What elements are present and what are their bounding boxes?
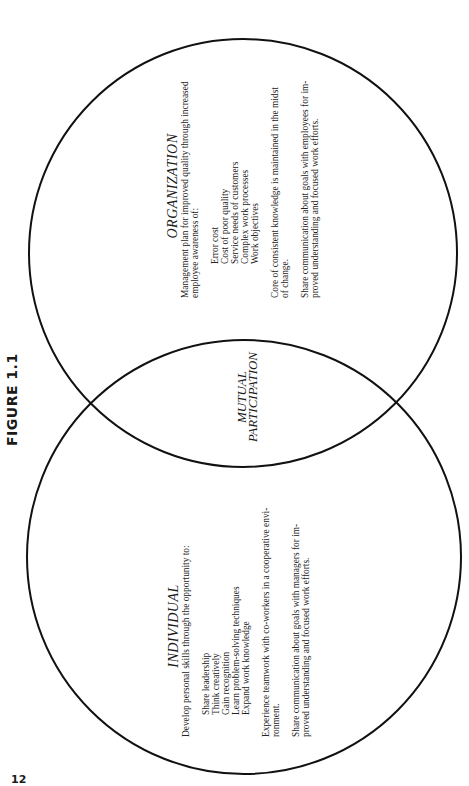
individual-opportunity-list: Share leadership Think creatively Gain r… (201, 515, 251, 737)
figure-label: FIGURE 1.1 (4, 353, 20, 446)
list-item: Share leadership (201, 515, 211, 715)
organization-share-line-2: proved understanding and focused work ef… (310, 74, 320, 298)
organization-core-line-2: of change. (280, 74, 290, 298)
organization-share-line-1: Share communication about goals with emp… (300, 74, 310, 298)
individual-heading: INDIVIDUAL (167, 515, 181, 737)
list-item: Work objectives (250, 74, 260, 264)
organization-heading: ORGANIZATION (166, 74, 180, 298)
list-item: Learn problem-solving techniques (231, 515, 241, 715)
list-item: Gain recognition (221, 515, 231, 715)
individual-share-line-1: Share communication about goals with man… (291, 515, 301, 737)
individual-experience-line-1: Experience teamwork with co-workers in a… (261, 515, 271, 737)
individual-experience-line-2: ronment. (271, 515, 281, 737)
organization-intro-line-2: employee awareness of: (190, 74, 200, 298)
list-item: Error cost (210, 74, 220, 264)
organization-core-line-1: Core of consistent knowledge is maintain… (270, 74, 280, 298)
organization-text-block: ORGANIZATION Management plan for improve… (166, 74, 320, 298)
list-item: Service needs of customers (230, 74, 240, 264)
overlap-line-2: PARTICIPATION (247, 351, 258, 443)
organization-awareness-list: Error cost Cost of poor quality Service … (210, 74, 260, 298)
list-item: Cost of poor quality (220, 74, 230, 264)
list-item: Complex work processes (240, 74, 250, 264)
organization-intro-line-1: Management plan for improved quality thr… (180, 74, 190, 298)
list-item: Expand work knowledge (241, 515, 251, 715)
page-number: 12 (11, 773, 26, 786)
list-item: Think creatively (211, 515, 221, 715)
overlap-label: MUTUAL PARTICIPATION (236, 351, 258, 443)
individual-share-line-2: proved understanding and focused work ef… (301, 515, 311, 737)
individual-text-block: INDIVIDUAL Develop personal skills throu… (167, 515, 311, 737)
individual-intro-line-1: Develop personal skills through the oppo… (181, 515, 191, 737)
